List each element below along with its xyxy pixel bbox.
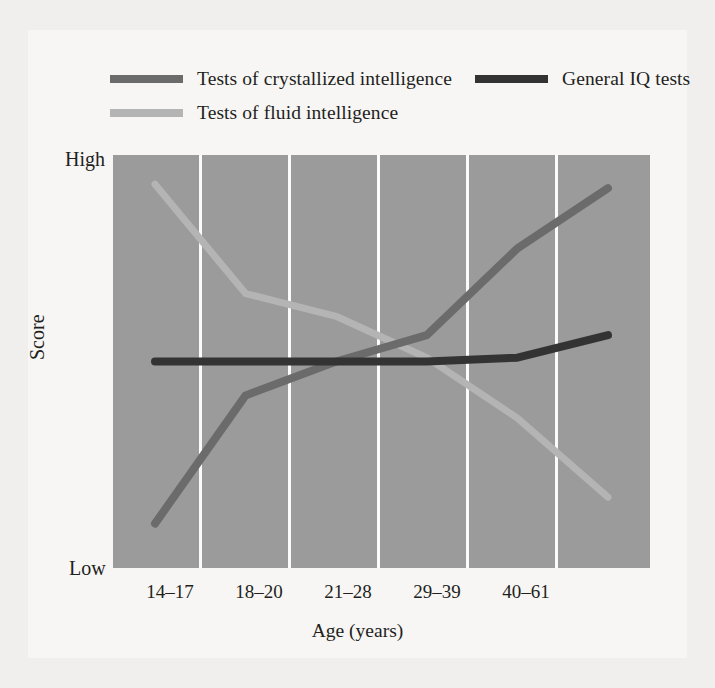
chart-plot-wrapper: High Low Score 14–17 18–20 21–28 29–39 4…: [28, 30, 687, 658]
x-tick-label-1: 18–20: [214, 581, 304, 603]
x-tick-label-4: 40–61: [481, 581, 571, 603]
y-axis-top-label: High: [65, 148, 105, 171]
series-lines-svg: [113, 155, 650, 568]
plot-area: [113, 155, 650, 568]
x-tick-label-3: 29–39: [392, 581, 482, 603]
x-tick-label-0: 14–17: [125, 581, 215, 603]
x-axis-title: Age (years): [28, 620, 687, 642]
y-axis-bottom-label: Low: [69, 557, 106, 580]
figure-panel: Tests of crystallized intelligence Tests…: [28, 30, 687, 658]
y-axis-title: Score: [26, 314, 49, 360]
x-tick-label-2: 21–28: [303, 581, 393, 603]
